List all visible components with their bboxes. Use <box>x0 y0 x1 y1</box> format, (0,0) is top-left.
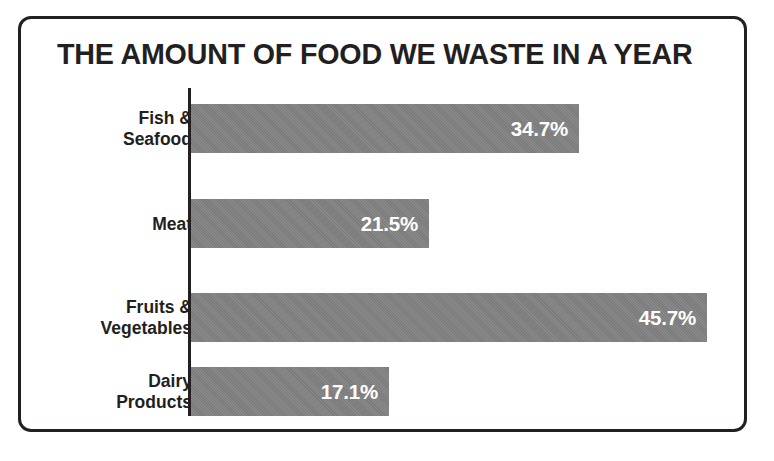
bar-fruits-vegetables: 45.7% <box>191 293 707 342</box>
bar-fish-seafood: 34.7% <box>191 104 579 153</box>
bar-row: Fish & Seafood 34.7% <box>21 104 750 153</box>
bar-row: Meat 21.5% <box>21 199 750 248</box>
category-label: Dairy Products <box>32 371 192 413</box>
plot-area: Fish & Seafood 34.7% Meat 21.5% Fruits &… <box>21 87 750 427</box>
bar-value-label: 21.5% <box>361 212 418 236</box>
bar-value-label: 17.1% <box>321 380 378 404</box>
chart-card-border: THE AMOUNT OF FOOD WE WASTE IN A YEAR Fi… <box>18 16 747 432</box>
category-label: Fish & Seafood <box>32 108 192 150</box>
page-title: THE AMOUNT OF FOOD WE WASTE IN A YEAR <box>57 37 687 73</box>
bar-meat: 21.5% <box>191 199 429 248</box>
category-label: Fruits & Vegetables <box>32 297 192 339</box>
bar-row: Fruits & Vegetables 45.7% <box>21 293 750 342</box>
bar-row: Dairy Products 17.1% <box>21 367 750 416</box>
bar-dairy-products: 17.1% <box>191 367 389 416</box>
chart-image: THE AMOUNT OF FOOD WE WASTE IN A YEAR Fi… <box>0 0 774 461</box>
category-label: Meat <box>32 213 192 234</box>
bar-value-label: 45.7% <box>639 306 696 330</box>
bar-value-label: 34.7% <box>511 117 568 141</box>
